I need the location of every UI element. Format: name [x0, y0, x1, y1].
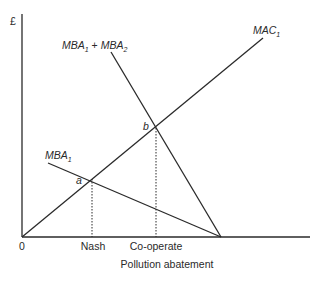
- pollution-abatement-diagram: £ 0 Nash Co-operate Pollution abatement …: [0, 0, 322, 282]
- mba-sum-label: MBA1 + MBA2: [62, 39, 127, 53]
- mba1-label: MBA1: [45, 149, 72, 163]
- x-axis-label: Pollution abatement: [121, 258, 214, 270]
- point-a-label: a: [76, 174, 82, 186]
- mba1-curve: [48, 163, 221, 237]
- mba-sum-curve: [111, 52, 221, 237]
- x-tick-cooperate: Co-operate: [130, 240, 183, 252]
- x-tick-nash: Nash: [81, 240, 106, 252]
- mac1-curve: [22, 38, 263, 237]
- origin-label: 0: [19, 240, 25, 252]
- y-axis-label: £: [10, 15, 16, 27]
- point-b-label: b: [143, 120, 149, 132]
- mac1-label: MAC1: [253, 24, 280, 38]
